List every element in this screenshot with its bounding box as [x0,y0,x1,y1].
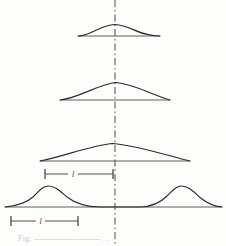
figure-container: l l Fig. ———————— ... [0,0,226,246]
dimension-upper-label: l [72,170,75,179]
profile-1-group [78,25,160,37]
figure-caption: Fig. ———————— ... [18,234,110,243]
profile-4-curve [5,186,222,207]
profile-1-curve [78,25,160,37]
diffraction-profile-figure: l l [0,0,226,246]
dimension-marker-upper: l [45,169,113,179]
dimension-marker-lower: l [11,216,78,226]
profile-4-group [5,186,222,207]
dimension-lower-label: l [39,217,42,226]
